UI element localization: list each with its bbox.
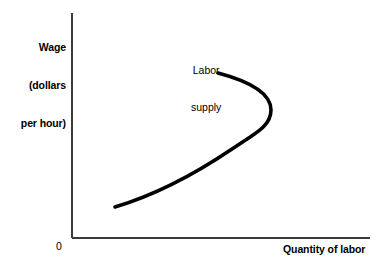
y-axis-label-line-2: (dollars: [21, 79, 66, 92]
origin-label: 0: [56, 240, 62, 252]
y-axis-label-line-3: per hour): [21, 117, 66, 130]
y-axis-label: Wage (dollars per hour): [21, 16, 66, 155]
y-axis-label-line-1: Wage: [21, 41, 66, 54]
x-axis-label: Quantity of labor: [283, 243, 365, 255]
labor-supply-annotation: Labor supply: [191, 39, 221, 138]
labor-supply-annotation-line-1: Labor: [191, 64, 221, 76]
labor-supply-annotation-line-2: supply: [191, 101, 221, 113]
chart-figure: Wage (dollars per hour) Quantity of labo…: [0, 0, 384, 265]
